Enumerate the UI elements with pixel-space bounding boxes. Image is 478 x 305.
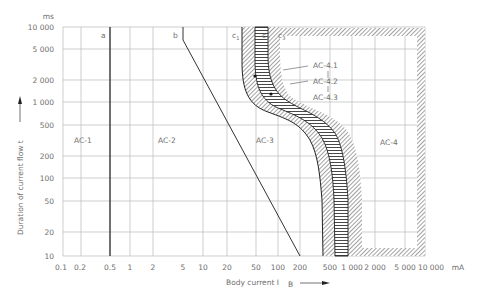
zone-ac42-label: AC-4.2 — [313, 77, 338, 86]
zone-ac4-label: AC-4 — [380, 138, 398, 147]
svg-text:1: 1 — [128, 263, 133, 272]
svg-text:100: 100 — [271, 263, 286, 272]
y-axis-ticks: ms 10 000 5 000 2 000 1 000 500 200 100 … — [28, 12, 54, 261]
svg-text:Body current I: Body current I — [226, 278, 279, 287]
svg-text:1 000: 1 000 — [33, 98, 55, 107]
svg-text:2: 2 — [151, 263, 156, 272]
marker-dot — [269, 92, 272, 95]
svg-text:20: 20 — [222, 263, 232, 272]
svg-text:10 000: 10 000 — [28, 23, 54, 32]
zone-ac3-label: AC-3 — [256, 136, 274, 145]
svg-text:20: 20 — [44, 228, 54, 237]
svg-text:200: 200 — [293, 263, 308, 272]
svg-text:100: 100 — [40, 174, 55, 183]
svg-text:10 000: 10 000 — [418, 263, 444, 272]
svg-text:0.5: 0.5 — [104, 263, 116, 272]
svg-text:0.2: 0.2 — [74, 263, 86, 272]
x-axis-ticks: 0.1 0.2 0.5 1 2 5 10 20 50 100 200 500 1… — [55, 263, 465, 272]
svg-text:50: 50 — [44, 197, 54, 206]
svg-text:500: 500 — [40, 121, 55, 130]
x-axis-label: Body current I B — [226, 278, 330, 289]
svg-text:B: B — [288, 280, 293, 289]
svg-text:5 000: 5 000 — [33, 45, 55, 54]
chart-canvas: a b c1 c2 c3 AC-1 AC-2 AC-3 AC-4 AC-4.1 … — [0, 0, 478, 305]
svg-text:5 000: 5 000 — [394, 263, 416, 272]
svg-text:10: 10 — [44, 252, 54, 261]
curve-c1-label: c1 — [232, 31, 239, 41]
zone-ac1-label: AC-1 — [74, 136, 92, 145]
x-unit: mA — [452, 263, 465, 272]
svg-text:2 000: 2 000 — [33, 76, 55, 85]
svg-text:2 000: 2 000 — [364, 263, 386, 272]
y-axis-label: Duration of current flow t — [16, 140, 25, 235]
svg-text:200: 200 — [40, 152, 55, 161]
zone-ac2-label: AC-2 — [158, 136, 176, 145]
svg-text:5: 5 — [181, 263, 186, 272]
marker-dot — [253, 74, 256, 77]
curve-b-label: b — [173, 31, 178, 40]
y-unit: ms — [43, 12, 54, 21]
svg-text:Duration of current flow t: Duration of current flow t — [16, 140, 25, 235]
svg-text:50: 50 — [251, 263, 261, 272]
svg-text:1 000: 1 000 — [341, 263, 363, 272]
zone-ac43-label: AC-4.3 — [313, 93, 338, 102]
svg-text:10: 10 — [198, 263, 208, 272]
y-axis-arrow — [18, 96, 22, 122]
curve-a-label: a — [101, 31, 106, 40]
zone-ac41-label: AC-4.1 — [313, 61, 338, 70]
svg-text:500: 500 — [323, 263, 338, 272]
svg-text:0.1: 0.1 — [55, 263, 67, 272]
